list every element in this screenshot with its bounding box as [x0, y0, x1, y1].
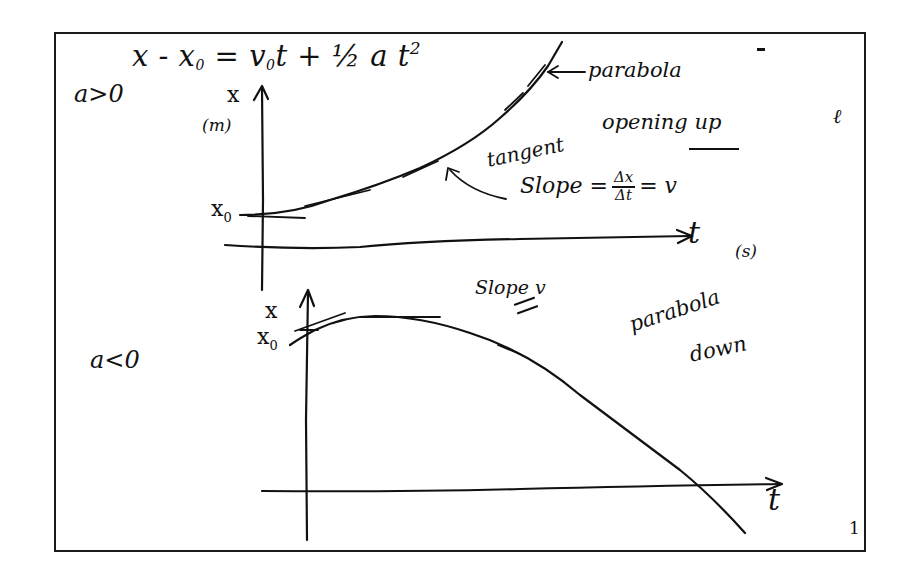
kinematics-equation: x - x0 = v0t + ½ a t2: [132, 40, 421, 72]
upper-t-axis-label: t: [688, 218, 700, 248]
lower-parabola-curve: [290, 316, 745, 533]
upper-t-axis-unit: (s): [735, 243, 757, 260]
upper-tangent-lines: [248, 65, 545, 218]
stray-mark: ℓ: [833, 106, 841, 126]
slope-equation: Slope =ΔxΔt= v: [520, 170, 677, 204]
parabola-label: parabola: [588, 60, 682, 81]
tangent-pointer-arrow: [446, 168, 506, 199]
dash-mark: [757, 48, 765, 51]
lower-t-axis-label: t: [768, 485, 780, 515]
lower-t-axis: [262, 478, 782, 491]
page-number: 1: [849, 520, 860, 537]
up-underline: [689, 148, 739, 150]
opening-up-note: opening up: [602, 112, 721, 133]
upper-intercept-label: x0: [211, 198, 232, 224]
upper-y-axis-unit: (m): [202, 117, 231, 134]
condition-a-negative: a<0: [90, 348, 140, 372]
upper-y-axis: [254, 86, 268, 290]
slope-equals-v-note: Slope v: [475, 278, 546, 297]
upper-y-axis-label: x: [227, 84, 239, 106]
upper-t-axis: [225, 230, 692, 248]
lower-y-axis-label: x: [265, 300, 277, 322]
slope-fraction: ΔxΔt: [612, 170, 635, 204]
parabola-pointer-arrow: [548, 66, 585, 78]
lower-intercept-label: x0: [257, 326, 278, 352]
condition-a-positive: a>0: [74, 82, 124, 106]
